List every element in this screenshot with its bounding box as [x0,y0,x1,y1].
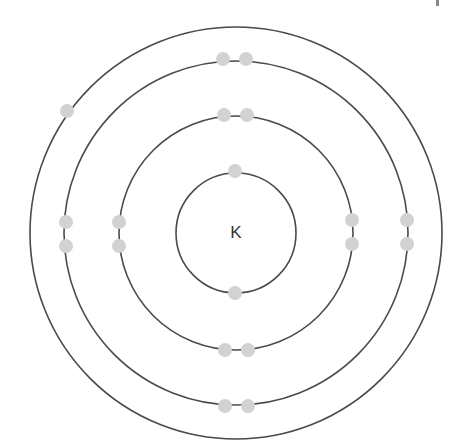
electron [112,239,126,253]
electron [345,213,359,227]
electron [241,343,255,357]
electron [217,108,231,122]
electron [59,215,73,229]
electron [400,213,414,227]
nucleus-label: K [230,223,242,242]
bohr-diagram: K [0,0,465,446]
electron [345,237,359,251]
electron [218,399,232,413]
electron [228,286,242,300]
electron [241,399,255,413]
electron [228,164,242,178]
electron [240,108,254,122]
electron [112,215,126,229]
electron [60,104,74,118]
electron [400,237,414,251]
electron [239,52,253,66]
electron [216,52,230,66]
electron [218,343,232,357]
electron [59,239,73,253]
